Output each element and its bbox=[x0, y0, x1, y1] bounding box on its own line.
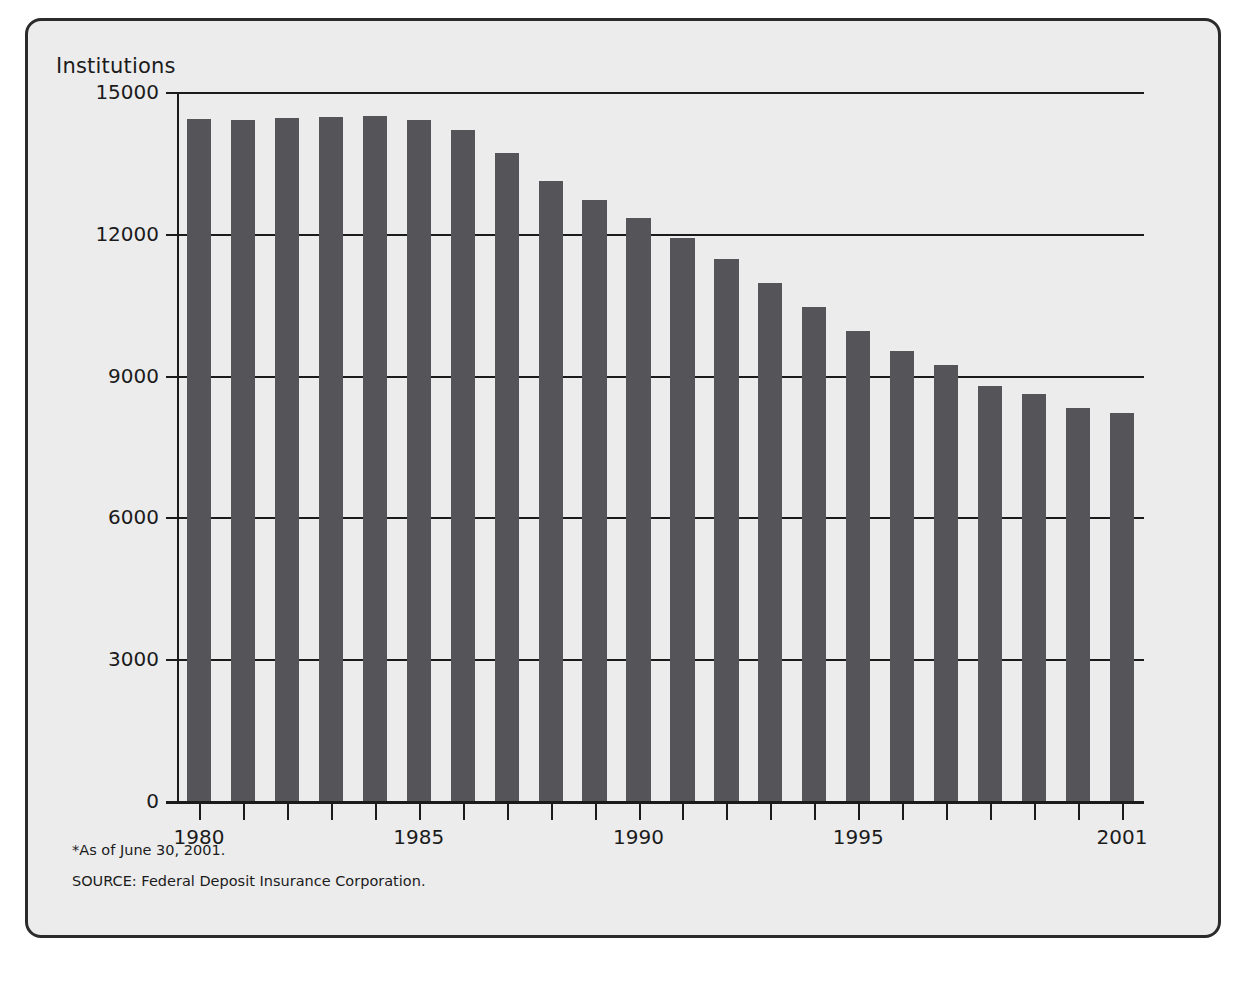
x-axis-tick bbox=[199, 804, 201, 820]
x-axis-tick bbox=[243, 804, 245, 820]
x-axis-tick bbox=[507, 804, 509, 820]
bar bbox=[802, 307, 826, 801]
y-axis-tick-label: 12000 bbox=[95, 222, 159, 246]
x-axis-tick bbox=[990, 804, 992, 820]
x-axis-tick-label: 1985 bbox=[393, 825, 444, 849]
bar bbox=[319, 117, 343, 801]
y-axis-tick bbox=[166, 801, 177, 803]
bar bbox=[978, 386, 1002, 801]
x-axis-tick bbox=[375, 804, 377, 820]
y-axis-line bbox=[177, 92, 179, 801]
bar bbox=[363, 116, 387, 801]
bar bbox=[407, 120, 431, 801]
x-axis-line bbox=[166, 801, 1144, 804]
x-axis-tick bbox=[595, 804, 597, 820]
bar bbox=[1022, 394, 1046, 801]
bar bbox=[758, 283, 782, 801]
y-axis-tick bbox=[166, 376, 177, 378]
bar bbox=[714, 259, 738, 801]
x-axis-tick bbox=[287, 804, 289, 820]
footnote: *As of June 30, 2001. bbox=[72, 842, 225, 858]
x-axis-tick bbox=[682, 804, 684, 820]
y-axis-tick-label: 0 bbox=[146, 789, 159, 813]
x-axis-tick bbox=[814, 804, 816, 820]
bar bbox=[231, 120, 255, 801]
y-axis-tick bbox=[166, 659, 177, 661]
x-axis-tick bbox=[331, 804, 333, 820]
bar bbox=[670, 238, 694, 801]
bar bbox=[495, 153, 519, 801]
x-axis-tick bbox=[1034, 804, 1036, 820]
x-axis-tick-label: 1995 bbox=[833, 825, 884, 849]
gridline bbox=[177, 92, 1144, 94]
x-axis-tick bbox=[1122, 804, 1124, 820]
chart-figure: Institutions 03000600090001200015000 198… bbox=[25, 18, 1221, 938]
source-note: SOURCE: Federal Deposit Insurance Corpor… bbox=[72, 873, 426, 889]
x-axis-tick bbox=[770, 804, 772, 820]
x-axis-tick bbox=[551, 804, 553, 820]
x-axis-tick-label: 1990 bbox=[613, 825, 664, 849]
plot-area: 03000600090001200015000 1980198519901995… bbox=[177, 92, 1144, 801]
y-axis-tick bbox=[166, 234, 177, 236]
bar bbox=[275, 118, 299, 801]
bar bbox=[1110, 413, 1134, 801]
bar bbox=[890, 351, 914, 801]
y-axis-tick-label: 6000 bbox=[108, 505, 159, 529]
y-axis-tick bbox=[166, 92, 177, 94]
x-axis-tick bbox=[419, 804, 421, 820]
bar bbox=[934, 365, 958, 801]
x-axis-tick-label: 2001 bbox=[1097, 825, 1148, 849]
bar bbox=[187, 119, 211, 801]
bar bbox=[1066, 408, 1090, 801]
bar bbox=[451, 130, 475, 801]
y-axis-title: Institutions bbox=[56, 54, 176, 78]
x-axis-tick bbox=[1078, 804, 1080, 820]
bar bbox=[846, 331, 870, 801]
x-axis-tick bbox=[639, 804, 641, 820]
y-axis-tick-label: 3000 bbox=[108, 647, 159, 671]
x-axis-tick bbox=[858, 804, 860, 820]
y-axis-tick-label: 9000 bbox=[108, 364, 159, 388]
x-axis-tick bbox=[463, 804, 465, 820]
x-axis-tick bbox=[902, 804, 904, 820]
y-axis-tick bbox=[166, 517, 177, 519]
bar bbox=[626, 218, 650, 801]
x-axis-tick bbox=[726, 804, 728, 820]
x-axis-tick bbox=[946, 804, 948, 820]
bar bbox=[582, 200, 606, 801]
bar bbox=[539, 181, 563, 801]
y-axis-tick-label: 15000 bbox=[95, 80, 159, 104]
